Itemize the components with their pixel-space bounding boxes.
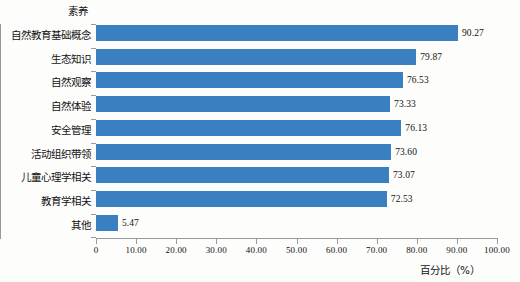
x-axis-tick-label: 0	[94, 245, 99, 255]
category-label: 安全管理	[0, 122, 91, 137]
cropped-caption-text	[250, 0, 520, 5]
bar-value-label: 73.60	[395, 147, 417, 157]
bar-value-label: 73.33	[394, 99, 416, 109]
x-axis-tick-label: 70.00	[366, 245, 387, 255]
y-axis-title: 素养	[68, 3, 88, 18]
bar	[96, 25, 458, 41]
x-axis-tick	[216, 239, 217, 244]
x-axis-tick-label: 90.00	[446, 245, 467, 255]
x-axis-tick-label: 50.00	[286, 245, 307, 255]
x-axis-tick	[136, 239, 137, 244]
bar-value-label: 5.47	[122, 218, 139, 228]
x-axis-tick	[337, 239, 338, 244]
x-axis-tick-label: 100.00	[484, 245, 510, 255]
x-axis-tick-label: 20.00	[166, 245, 187, 255]
bar	[96, 144, 391, 160]
x-axis-tick	[417, 239, 418, 244]
bar-value-label: 72.53	[391, 194, 413, 204]
bar	[96, 49, 416, 65]
bar	[96, 191, 387, 207]
category-label: 自然教育基础概念	[0, 27, 91, 42]
bar	[96, 215, 118, 231]
x-axis-tick-label: 10.00	[125, 245, 146, 255]
bar	[96, 72, 403, 88]
category-label: 其他	[0, 217, 91, 232]
x-axis-title: 百分比（%）	[420, 262, 480, 277]
bar-value-label: 90.27	[462, 28, 484, 38]
x-axis-tick	[497, 239, 498, 244]
category-label: 自然体验	[0, 98, 91, 113]
x-axis-tick-label: 60.00	[326, 245, 347, 255]
x-axis-tick	[176, 239, 177, 244]
x-axis-tick-label: 80.00	[406, 245, 427, 255]
x-axis-tick	[256, 239, 257, 244]
category-label: 儿童心理学相关	[0, 169, 91, 184]
category-label: 活动组织带领	[0, 146, 91, 161]
figure-canvas	[0, 0, 520, 282]
bar	[96, 96, 390, 112]
bar-value-label: 76.13	[405, 123, 427, 133]
x-axis-tick	[377, 239, 378, 244]
x-axis-tick	[457, 239, 458, 244]
bar-value-label: 73.07	[393, 170, 415, 180]
bar-value-label: 76.53	[407, 75, 429, 85]
bar-value-label: 79.87	[420, 52, 442, 62]
category-label: 教育学相关	[0, 193, 91, 208]
x-axis-tick-label: 40.00	[246, 245, 267, 255]
category-label: 自然观察	[0, 74, 91, 89]
bar	[96, 120, 401, 136]
x-axis-tick-label: 30.00	[206, 245, 227, 255]
x-axis-tick	[297, 239, 298, 244]
bar	[96, 167, 389, 183]
x-axis-tick	[96, 239, 97, 244]
category-label: 生态知识	[0, 51, 91, 66]
